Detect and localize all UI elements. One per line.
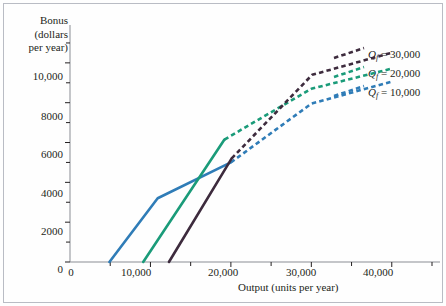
series-line-dashed-2 (232, 53, 391, 159)
legend-swatch-0 (334, 48, 364, 58)
chart-figure: Bonus (dollars per year) 10,000 8000 600… (0, 0, 446, 306)
plot-area (0, 0, 446, 306)
data-series (109, 48, 391, 262)
series-line-solid-0 (109, 162, 230, 262)
